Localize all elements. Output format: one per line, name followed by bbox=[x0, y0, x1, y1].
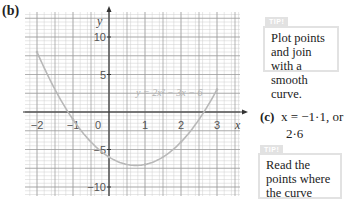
svg-text:y = 2x² − 3x − 6: y = 2x² − 3x − 6 bbox=[135, 87, 203, 98]
svg-text:1: 1 bbox=[142, 119, 148, 131]
svg-text:−10: −10 bbox=[87, 181, 106, 193]
svg-text:y: y bbox=[96, 14, 103, 28]
quadratic-graph: −2−10123105−5−10xyy = 2x² − 3x − 6 bbox=[0, 0, 250, 201]
svg-text:−2: −2 bbox=[31, 119, 44, 131]
svg-text:3: 3 bbox=[214, 119, 220, 131]
answer-line-2: 2·6 bbox=[260, 126, 303, 141]
svg-text:x: x bbox=[234, 118, 241, 132]
part-c-answer: (c) x = −1·1, or 2·6 bbox=[260, 108, 343, 142]
svg-text:2: 2 bbox=[178, 119, 184, 131]
tip-box-2: Read the points where the curve crosses … bbox=[258, 153, 342, 199]
svg-text:5: 5 bbox=[100, 69, 106, 81]
svg-text:10: 10 bbox=[94, 31, 106, 43]
tip-box-1: Plot points and join with a smooth curve… bbox=[263, 26, 339, 72]
answer-line-1: x = −1·1, or bbox=[281, 109, 343, 124]
part-c-label: (c) bbox=[260, 109, 274, 124]
svg-text:0: 0 bbox=[95, 119, 101, 131]
tip-tag-1: TIP! bbox=[265, 17, 288, 26]
